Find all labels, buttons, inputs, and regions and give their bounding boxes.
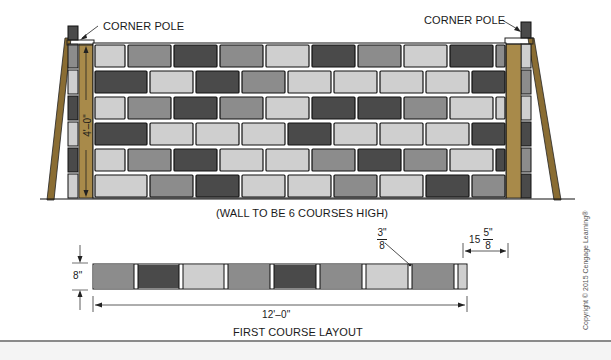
right-corner-pole [506, 44, 521, 198]
copyright-notice: Copyright © 2015 Cengage Learning® [582, 211, 589, 330]
block-length-numerator: 5" [483, 227, 492, 238]
bottom-margin [0, 342, 611, 360]
block-length-fraction: 5" 8 [483, 228, 493, 251]
block-length-denominator: 8 [485, 240, 491, 251]
joint-fraction-numerator: 3" [377, 227, 386, 238]
corner-pole-label-left: CORNER POLE [103, 20, 184, 32]
corner-pole-label-right: CORNER POLE [424, 14, 505, 26]
first-course-strip [93, 264, 467, 289]
joint-fraction-denominator: 8 [379, 240, 385, 251]
joint-width-fraction: 3" 8 [377, 228, 387, 251]
wall-height-dimension: 4'–0" [82, 104, 93, 148]
course-height-dimension: 8" [73, 270, 82, 281]
right-brace [528, 38, 561, 200]
wall-note: (WALL TO BE 6 COURSES HIGH) [216, 207, 388, 219]
wall-elevation-diagram [0, 0, 611, 340]
course-length-dimension: 12'–0" [262, 309, 290, 320]
left-brace [47, 38, 71, 200]
left-corner-block-column [68, 26, 78, 198]
first-course-layout-title: FIRST COURSE LAYOUT [233, 326, 363, 338]
block-length-whole: 15 [469, 234, 480, 245]
right-corner-block-column [521, 22, 531, 198]
